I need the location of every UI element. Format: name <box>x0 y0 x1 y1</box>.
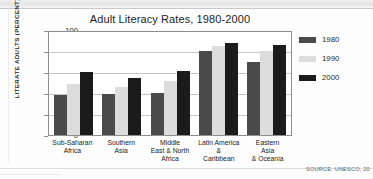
bar-1990 <box>164 81 177 135</box>
x-axis-label-line: Caribbean <box>195 155 242 163</box>
legend-item-2000[interactable]: 2000 <box>299 68 369 87</box>
bar-1990 <box>260 51 273 135</box>
bar-group <box>49 32 97 135</box>
x-axis-label-line: Sub-Saharan <box>49 139 96 147</box>
legend-swatch-icon <box>299 75 316 81</box>
y-axis-tick-mark <box>44 136 48 137</box>
x-axis-category-label: Latin America&Caribbean <box>194 139 243 179</box>
chart-title: Adult Literacy Rates, 1980-2000 <box>48 13 292 25</box>
bar-1980 <box>102 94 115 135</box>
x-axis-category-label: MiddleEast & NorthAfrica <box>146 139 195 179</box>
bar-2000 <box>225 43 238 135</box>
bar-2000 <box>177 71 190 135</box>
legend-label: 1980 <box>322 35 339 44</box>
bar-1980 <box>199 51 212 135</box>
x-axis-label-line: East & North <box>147 147 194 155</box>
page-scan-left-rule <box>8 11 9 163</box>
legend: 198019902000 <box>299 30 369 87</box>
bar-1980 <box>247 62 260 136</box>
legend-item-1990[interactable]: 1990 <box>299 49 369 68</box>
bar-group <box>97 32 145 135</box>
legend-swatch-icon <box>299 37 316 43</box>
x-axis-label-line: Southern <box>98 139 145 147</box>
bar-series-layer <box>49 32 291 135</box>
bar-group <box>146 32 194 135</box>
bar-1990 <box>212 46 225 135</box>
source-note: SOURCE: UNESCO, 20 <box>306 166 370 172</box>
x-axis-category-labels: Sub-SaharanAfricaSouthernAsiaMiddleEast … <box>48 139 292 179</box>
bar-group <box>243 32 291 135</box>
x-axis-category-label: EasternAsia& Oceania <box>243 139 292 179</box>
x-axis-category-label: Sub-SaharanAfrica <box>48 139 97 179</box>
legend-label: 1990 <box>322 54 339 63</box>
x-axis-label-line: Eastern <box>244 139 291 147</box>
x-axis-label-line: & Oceania <box>244 155 291 163</box>
legend-item-1980[interactable]: 1980 <box>299 30 369 49</box>
plot-area <box>48 31 292 136</box>
bar-1990 <box>67 84 80 135</box>
x-axis-category-label: SouthernAsia <box>97 139 146 179</box>
page-scan-top-band <box>0 0 373 9</box>
bar-1990 <box>115 87 128 135</box>
legend-label: 2000 <box>322 73 339 82</box>
x-axis-label-line: Latin America <box>195 139 242 147</box>
x-axis-label-line: Asia <box>244 147 291 155</box>
x-axis-label-line: Middle <box>147 139 194 147</box>
bar-group <box>194 32 242 135</box>
bar-2000 <box>128 78 141 135</box>
x-axis-label-line: Africa <box>147 155 194 163</box>
bar-1980 <box>54 95 67 135</box>
x-axis-label-line: Asia <box>98 147 145 155</box>
x-axis-label-line: Africa <box>49 147 96 155</box>
bar-1980 <box>151 93 164 135</box>
bar-2000 <box>80 72 93 135</box>
x-axis-label-line: & <box>195 147 242 155</box>
bar-2000 <box>273 45 286 135</box>
legend-swatch-icon <box>299 56 316 62</box>
